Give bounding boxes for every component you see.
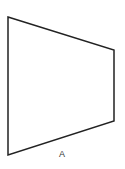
quadrilateral-shape [8, 17, 114, 155]
diagram-canvas: A [0, 0, 125, 169]
shape-label: A [59, 149, 65, 159]
